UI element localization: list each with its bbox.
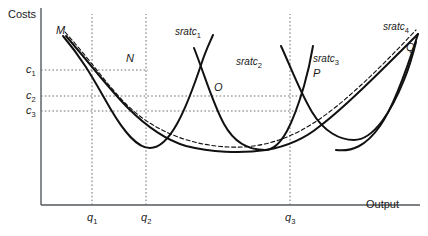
curve-label-sratc3: sratc3 — [313, 54, 339, 67]
y-axis-title: Costs — [8, 9, 36, 20]
output-guide-lines — [92, 14, 290, 205]
cost-curves-figure: Costs Output c1c2c3q1q2q3 MNOPQ sratc1sr… — [0, 0, 428, 236]
curve-lratc-solid-scallops — [66, 34, 418, 152]
point-label-m: M — [56, 25, 65, 36]
x-tick-label-q1: q1 — [87, 212, 97, 226]
y-tick-label-c2: c2 — [26, 90, 36, 104]
x-tick-label-q2: q2 — [141, 212, 151, 226]
point-label-o: O — [214, 82, 223, 93]
curve-sratc1 — [63, 35, 213, 148]
curve-label-sratc1: sratc1 — [175, 27, 201, 40]
cost-guide-lines — [41, 70, 300, 111]
x-axis-title: Output — [366, 199, 399, 210]
curve-label-sratc4: sratc4 — [383, 22, 409, 35]
x-tick-label-q3: q3 — [285, 212, 295, 226]
curve-label-sratc2: sratc2 — [236, 57, 262, 70]
point-label-q: Q — [406, 42, 415, 53]
point-label-n: N — [126, 53, 134, 64]
y-tick-label-c1: c1 — [26, 64, 36, 78]
curves-group — [63, 30, 418, 152]
point-label-p: P — [313, 68, 320, 79]
y-tick-label-c3: c3 — [26, 105, 36, 119]
axes-group — [41, 8, 420, 205]
